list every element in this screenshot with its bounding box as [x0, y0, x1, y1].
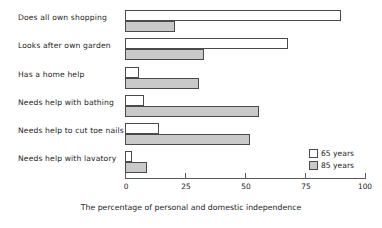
x-tick-label-100: 100 — [358, 183, 372, 190]
category-label-2: Has a home help — [18, 71, 84, 79]
x-axis-line — [125, 178, 366, 179]
x-tick-0 — [125, 173, 126, 178]
category-label-5: Needs help with lavatory — [18, 155, 116, 163]
bar-85-4 — [125, 134, 250, 145]
x-tick-100 — [365, 173, 366, 178]
bar-65-1 — [125, 38, 288, 49]
bar-85-3 — [125, 106, 259, 117]
x-tick-label-75: 75 — [301, 183, 310, 190]
x-tick-50 — [245, 173, 246, 178]
bar-85-2 — [125, 78, 199, 89]
bar-85-5 — [125, 162, 147, 173]
category-label-3: Needs help with bathing — [18, 99, 114, 107]
legend: 65 years 85 years — [309, 148, 379, 172]
bar-85-1 — [125, 49, 204, 60]
x-tick-75 — [305, 173, 306, 178]
bar-65-2 — [125, 67, 139, 78]
legend-label-65-years: 65 years — [321, 150, 354, 158]
category-label-4: Needs help to cut toe nails — [18, 127, 124, 135]
legend-swatch-65-years — [309, 149, 318, 158]
legend-swatch-85-years — [309, 161, 318, 170]
bar-65-0 — [125, 10, 341, 21]
legend-item-85-years: 85 years — [309, 160, 379, 171]
bar-65-4 — [125, 123, 159, 134]
horizontal-bar-chart: Does all own shopping Looks after own ga… — [0, 0, 382, 228]
category-label-0: Does all own shopping — [18, 14, 107, 22]
legend-item-65-years: 65 years — [309, 148, 379, 159]
x-tick-label-0: 0 — [124, 183, 129, 190]
x-axis-title: The percentage of personal and domestic … — [0, 204, 382, 212]
legend-label-85-years: 85 years — [321, 162, 354, 170]
x-tick-label-50: 50 — [241, 183, 250, 190]
bar-65-3 — [125, 95, 144, 106]
bar-85-0 — [125, 21, 175, 32]
x-tick-25 — [185, 173, 186, 178]
category-label-1: Looks after own garden — [18, 42, 111, 50]
x-tick-label-25: 25 — [181, 183, 190, 190]
bar-65-5 — [125, 151, 132, 162]
